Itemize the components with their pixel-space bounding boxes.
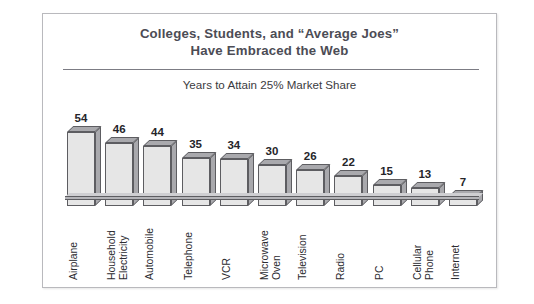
bar-value-label: 30 <box>258 145 286 157</box>
bar-value-label: 22 <box>334 156 362 168</box>
bar-value-label: 35 <box>182 138 210 150</box>
bar-group[interactable]: 54 <box>67 110 95 206</box>
category-label: Internet <box>450 210 462 280</box>
category-label: PC <box>374 210 386 280</box>
category-label: Radio <box>335 210 347 280</box>
bar-top-face <box>182 152 216 158</box>
bar-front-face <box>296 170 324 206</box>
category-label: Cellular Phone <box>412 210 435 280</box>
bar-front-face <box>334 176 362 206</box>
chart-baseline-platform <box>65 193 479 200</box>
bar-group[interactable]: 7 <box>449 174 477 206</box>
category-label: Airplane <box>68 210 80 280</box>
bar-chart-plot-area: 544644353430262215137 AirplaneHousehold … <box>43 14 496 287</box>
bar-value-label: 54 <box>67 112 95 124</box>
bar-value-label: 34 <box>220 139 248 151</box>
category-label: Telephone <box>183 210 195 280</box>
bar-value-label: 26 <box>296 150 324 162</box>
category-label: Automobile <box>144 210 156 280</box>
category-label: VCR <box>221 210 233 280</box>
chart-figure-frame: Colleges, Students, and “Average Joes” H… <box>42 13 497 288</box>
bar-value-label: 13 <box>411 168 439 180</box>
category-label: Television <box>297 210 309 280</box>
bar-side-face <box>362 170 368 206</box>
bar-value-label: 7 <box>449 176 477 188</box>
bar-group[interactable]: 13 <box>411 166 439 206</box>
bar-value-label: 46 <box>105 123 133 135</box>
category-label: Household Electricity <box>106 210 129 280</box>
bar-top-face <box>373 179 407 185</box>
bar-value-label: 44 <box>143 126 171 138</box>
baseline-front-face <box>65 196 479 200</box>
bar-3d[interactable] <box>334 170 368 206</box>
bar-value-label: 15 <box>373 165 401 177</box>
category-label: Microwave Oven <box>259 210 282 280</box>
